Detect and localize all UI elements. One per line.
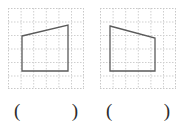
close-paren-1: ) (72, 98, 78, 124)
quadrilateral-shape-left (22, 25, 68, 71)
close-paren-2: ) (164, 98, 170, 124)
worksheet-canvas: ( ) ( ) (0, 0, 180, 124)
figure-panel-right (100, 8, 176, 89)
answer-blank-1[interactable] (26, 98, 66, 124)
answer-slot-2[interactable]: ( ) (100, 98, 176, 124)
figure-panel-left (8, 8, 84, 89)
grid-box-left (8, 8, 84, 89)
open-paren-2: ( (106, 98, 112, 124)
answer-row: ( ) ( ) (0, 98, 180, 124)
answer-blank-2[interactable] (118, 98, 158, 124)
answer-slot-1[interactable]: ( ) (8, 98, 84, 124)
open-paren-1: ( (14, 98, 20, 124)
grid-box-right (100, 8, 176, 89)
